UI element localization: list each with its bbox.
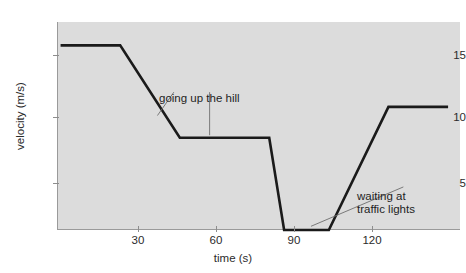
x-axis-label: time (s) — [0, 252, 466, 264]
ytick-5 — [53, 183, 59, 184]
ytick-10 — [53, 117, 59, 118]
xtick-label-120: 120 — [352, 234, 392, 246]
xtick-label-60: 60 — [196, 234, 236, 246]
xtick-120 — [372, 226, 373, 232]
ytick-label-15: 15 — [432, 49, 466, 61]
ytick-label-10: 10 — [432, 111, 466, 123]
data-line-layer — [0, 0, 466, 273]
chart-figure: 15 10 5 30 60 90 120 time (s) velocity (… — [0, 0, 466, 273]
y-axis-label: velocity (m/s) — [14, 61, 26, 171]
xtick-label-30: 30 — [118, 234, 158, 246]
ytick-15 — [53, 55, 59, 56]
annotation-waiting-at-traffic-lights: waiting attraffic lights — [357, 190, 415, 216]
xtick-label-90: 90 — [274, 234, 314, 246]
annotation-wait-line1: waiting at — [357, 190, 406, 202]
annotation-wait-line2: traffic lights — [357, 203, 415, 215]
annotation-going-up-the-hill: going up the hill — [159, 92, 240, 105]
ytick-label-5: 5 — [432, 177, 466, 189]
xtick-30 — [138, 226, 139, 232]
xtick-90 — [294, 226, 295, 232]
xtick-60 — [216, 226, 217, 232]
